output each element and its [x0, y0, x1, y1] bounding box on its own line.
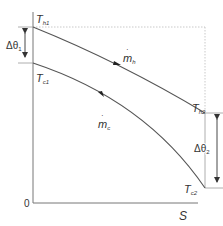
- mh-dot: ·: [126, 45, 129, 54]
- cold-stream-curve: [33, 63, 205, 188]
- x-axis-label: S: [179, 209, 187, 223]
- heat-exchanger-diagram: Th1 Tc1 Th2 Tc2 mh · mc · Δθ1 Δθ2 0 S: [0, 0, 223, 226]
- label-mh: mh: [123, 52, 136, 65]
- label-tc1: Tc1: [36, 72, 49, 85]
- label-mc: mc: [98, 118, 110, 131]
- mc-dot: ·: [101, 111, 104, 120]
- label-th1: Th1: [36, 13, 49, 26]
- label-tc2: Tc2: [184, 183, 198, 196]
- label-delta-theta-1: Δθ1: [6, 40, 22, 52]
- label-delta-theta-2-text: Δθ2: [194, 143, 210, 155]
- hot-stream-curve: [33, 27, 205, 113]
- label-th2: Th2: [192, 102, 206, 115]
- hot-flow-arrow-icon: [113, 61, 121, 65]
- origin-label: 0: [24, 198, 30, 209]
